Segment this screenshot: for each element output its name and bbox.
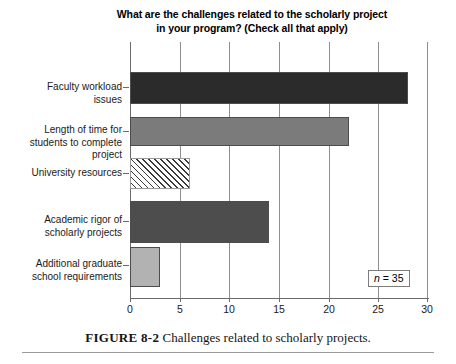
x-tick-mark-0	[130, 298, 131, 302]
category-label-line: University resources	[0, 167, 122, 180]
category-label-line: Length of time for	[0, 124, 122, 137]
category-label-length-of-time: Length of time for students to complete …	[0, 124, 122, 162]
figure-caption: FIGURE 8-2 Challenges related to scholar…	[0, 330, 456, 346]
category-tick-mark	[123, 87, 129, 88]
figure-caption-text: Challenges related to scholarly projects…	[163, 330, 371, 345]
x-tick-label-0: 0	[115, 303, 145, 315]
x-tick-label-5: 5	[165, 303, 195, 315]
bar-academic-rigor[interactable]	[130, 201, 269, 243]
x-tick-mark-30	[427, 298, 428, 302]
x-tick-mark-25	[378, 298, 379, 302]
category-label-line: school requirements	[0, 271, 122, 284]
bar-additional-graduate[interactable]	[130, 247, 160, 287]
category-label-additional-graduate: Additional graduate school requirements	[0, 258, 122, 283]
chart-title-line-2: in your program? (Check all that apply)	[92, 22, 412, 36]
category-tick-mark	[123, 173, 129, 174]
category-label-faculty-workload-issues: Faculty workload issues	[0, 81, 122, 106]
chart-title: What are the challenges related to the s…	[92, 8, 412, 35]
bar-length-of-time[interactable]	[130, 117, 349, 146]
plot-area	[130, 42, 428, 298]
bar-university-resources[interactable]	[130, 158, 190, 189]
category-label-line: issues	[0, 94, 122, 107]
category-label-university-resources: University resources	[0, 167, 122, 180]
gridline-30	[427, 42, 428, 298]
category-label-line: project	[0, 149, 122, 162]
x-tick-mark-10	[229, 298, 230, 302]
x-tick-mark-20	[329, 298, 330, 302]
y-axis-category-labels: Faculty workload issues Length of time f…	[0, 0, 122, 364]
x-tick-label-20: 20	[314, 303, 344, 315]
category-label-line: Additional graduate	[0, 258, 122, 271]
category-label-line: Academic rigor of	[0, 214, 122, 227]
x-tick-label-10: 10	[214, 303, 244, 315]
x-tick-mark-5	[180, 298, 181, 302]
category-tick-mark	[123, 221, 129, 222]
x-tick-label-30: 30	[412, 303, 442, 315]
sample-size-value: = 35	[380, 272, 404, 284]
category-label-academic-rigor: Academic rigor of scholarly projects	[0, 214, 122, 239]
bar-faculty-workload-issues[interactable]	[130, 72, 408, 104]
category-label-line: students to complete	[0, 137, 122, 150]
x-tick-label-25: 25	[363, 303, 393, 315]
sample-size-annotation: n = 35	[368, 270, 410, 287]
chart-title-line-1: What are the challenges related to the s…	[92, 8, 412, 22]
category-label-line: Faculty workload	[0, 81, 122, 94]
figure-number: FIGURE 8-2	[85, 330, 159, 345]
category-tick-mark	[123, 131, 129, 132]
x-tick-mark-15	[279, 298, 280, 302]
category-tick-mark	[123, 265, 129, 266]
x-tick-label-15: 15	[264, 303, 294, 315]
category-label-line: scholarly projects	[0, 227, 122, 240]
caption-divider-rule	[22, 352, 434, 353]
